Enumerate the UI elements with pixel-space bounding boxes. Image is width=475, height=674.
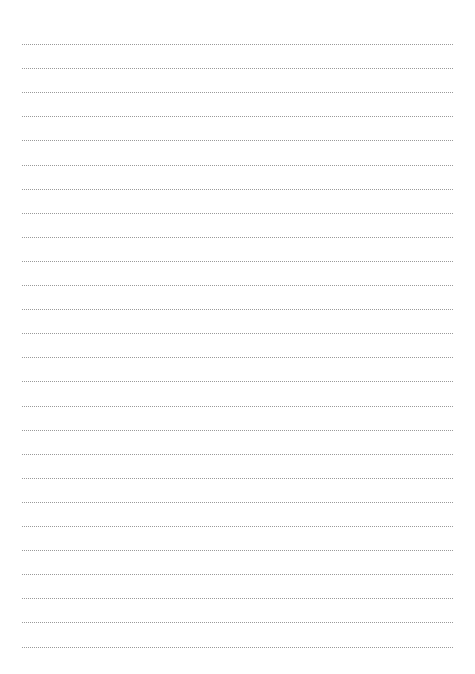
ruled-line [22,285,453,286]
ruled-line [22,357,453,358]
ruled-line [22,454,453,455]
ruled-line [22,309,453,310]
ruled-line [22,526,453,527]
ruled-line [22,140,453,141]
ruled-line [22,502,453,503]
ruled-line [22,381,453,382]
ruled-line [22,478,453,479]
ruled-line [22,92,453,93]
ruled-line [22,647,453,648]
ruled-line [22,213,453,214]
lined-paper-page [0,0,475,674]
ruled-line [22,598,453,599]
ruled-line [22,237,453,238]
ruled-line [22,116,453,117]
ruled-line [22,622,453,623]
ruled-line [22,406,453,407]
ruled-line [22,430,453,431]
ruled-line [22,574,453,575]
ruled-line [22,261,453,262]
ruled-line [22,44,453,45]
ruled-line [22,189,453,190]
ruled-line [22,165,453,166]
ruled-line [22,68,453,69]
ruled-line [22,550,453,551]
ruled-line [22,333,453,334]
